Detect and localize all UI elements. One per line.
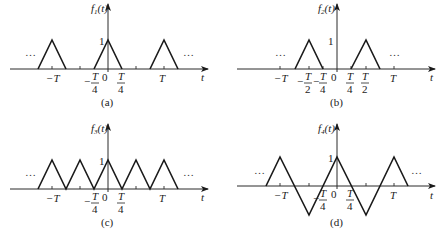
peak-label-c: 1 bbox=[99, 155, 105, 167]
tick-T4-den-b: 4 bbox=[347, 83, 353, 95]
tick-neg-T2-num-b: T bbox=[305, 70, 312, 82]
tick-zero-d: 0 bbox=[331, 188, 337, 200]
xlabel-b: t bbox=[430, 71, 434, 83]
tick-neg-T4-den-a: 4 bbox=[92, 83, 98, 95]
tick-neg-T4-den-c: 4 bbox=[92, 203, 98, 215]
tick-T2-den-b: 2 bbox=[362, 83, 368, 95]
peak-label-a: 1 bbox=[99, 35, 105, 47]
tick-minus-b2: − bbox=[313, 75, 319, 87]
tick-T4-num-a: T bbox=[118, 70, 125, 82]
tick-neg-T-d: −T bbox=[274, 189, 288, 201]
tick-minus-b1: − bbox=[297, 75, 303, 87]
pulse-a-pos bbox=[150, 40, 178, 69]
tick-zero-b: 0 bbox=[331, 71, 337, 83]
panel-b: f2(t) 1 … … −T T 0 − T 2 − T 4 T 4 T 2 t… bbox=[237, 2, 435, 109]
signal-figure: f1(t) 1 … … −T T 0 − T 4 T 4 t (a) f2(t)… bbox=[0, 0, 445, 239]
tick-zero-a: 0 bbox=[102, 71, 108, 83]
tick-neg-T-c: −T bbox=[46, 192, 60, 204]
tick-T2-num-b: T bbox=[362, 70, 369, 82]
ellipsis-left-d: … bbox=[254, 164, 266, 176]
pulse-b-neg bbox=[295, 40, 323, 69]
tick-T4-den-a: 4 bbox=[118, 83, 124, 95]
tick-minus-d: − bbox=[313, 192, 319, 204]
tick-T4-num-c: T bbox=[118, 190, 125, 202]
tick-neg-T-a: −T bbox=[46, 72, 60, 84]
tick-zero-c: 0 bbox=[102, 191, 108, 203]
tick-T-c: T bbox=[159, 192, 166, 204]
pulse-b-pos bbox=[351, 40, 380, 69]
tick-T-a: T bbox=[159, 72, 166, 84]
tick-minus-a: − bbox=[84, 75, 90, 87]
ylabel-b: f2(t) bbox=[318, 2, 335, 16]
tick-minus-c: − bbox=[84, 195, 90, 207]
tick-T4-den-c: 4 bbox=[118, 203, 124, 215]
ellipsis-left-a: … bbox=[25, 46, 37, 58]
ellipsis-right-d: … bbox=[411, 164, 423, 176]
ylabel-c: f3(t) bbox=[91, 122, 108, 136]
pulse-a-neg bbox=[38, 40, 66, 69]
tick-T4-den-d: 4 bbox=[347, 200, 353, 212]
tick-neg-T4-den-d: 4 bbox=[320, 200, 326, 212]
panel-a: f1(t) 1 … … −T T 0 − T 4 T 4 t (a) bbox=[10, 2, 208, 109]
panel-c: f3(t) 1 … … −T T 0 − T 4 T 4 t (c) bbox=[10, 122, 208, 229]
tick-T4-num-b: T bbox=[347, 70, 354, 82]
tick-neg-T4-num-b: T bbox=[320, 70, 327, 82]
tick-neg-T2-den-b: 2 bbox=[305, 83, 311, 95]
tick-neg-T4-num-d: T bbox=[320, 187, 327, 199]
ylabel-a: f1(t) bbox=[91, 2, 108, 16]
tick-neg-T-b: −T bbox=[274, 72, 288, 84]
ellipsis-right-a: … bbox=[183, 46, 195, 58]
tick-T-b: T bbox=[390, 72, 397, 84]
caption-a: (a) bbox=[101, 96, 114, 109]
caption-b: (b) bbox=[330, 96, 343, 109]
peak-label-d: 1 bbox=[328, 152, 334, 164]
ellipsis-left-c: … bbox=[25, 166, 37, 178]
ellipsis-right-c: … bbox=[183, 166, 195, 178]
caption-d: (d) bbox=[330, 216, 343, 229]
xlabel-a: t bbox=[201, 71, 205, 83]
xlabel-d: t bbox=[430, 189, 434, 201]
xlabel-c: t bbox=[201, 191, 205, 203]
caption-c: (c) bbox=[101, 216, 114, 229]
panel-d: f4(t) 1 … … −T T 0 − T 4 T 4 t (d) bbox=[237, 122, 435, 229]
tick-neg-T4-den-b: 4 bbox=[320, 83, 326, 95]
peak-label-b: 1 bbox=[328, 35, 334, 47]
ellipsis-right-b: … bbox=[389, 46, 401, 58]
tick-neg-T4-num-a: T bbox=[92, 70, 99, 82]
tick-T-d: T bbox=[390, 189, 397, 201]
tick-neg-T4-num-c: T bbox=[92, 190, 99, 202]
tick-T4-num-d: T bbox=[347, 187, 354, 199]
ylabel-d: f4(t) bbox=[318, 122, 335, 136]
ellipsis-left-b: … bbox=[275, 46, 287, 58]
